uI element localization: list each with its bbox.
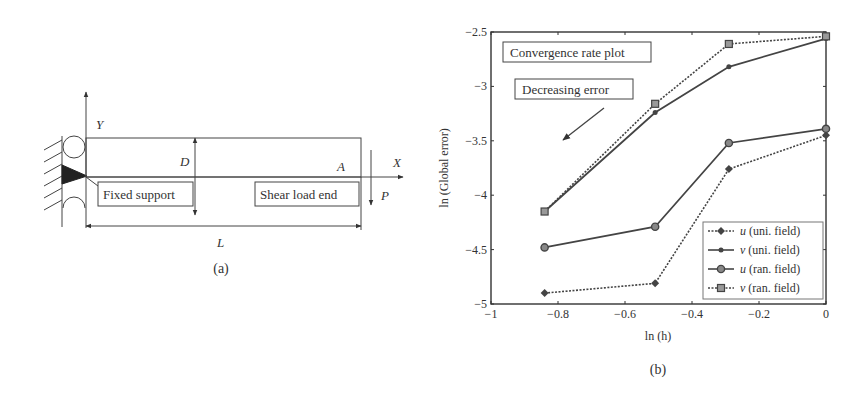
y-tick-label: −2.5 — [465, 25, 487, 39]
series-v-uni-field- — [542, 36, 828, 214]
legend: u (uni. field)v (uni. field)u (ran. fiel… — [703, 222, 823, 299]
pin-support — [62, 165, 87, 184]
x-tick-label: −0.8 — [547, 307, 569, 321]
title-box-label: Convergence rate plot — [510, 45, 625, 60]
figure-canvas: Y X D A P L Fixed support Shear load end… — [0, 0, 867, 396]
svg-text:u (uni. field): u (uni. field) — [740, 224, 800, 238]
load-p-label: P — [380, 188, 389, 203]
beam-diagram — [44, 92, 403, 230]
x-axis-label: X — [392, 155, 402, 170]
y-tick-label: −3 — [474, 79, 487, 93]
roller-bottom — [63, 197, 85, 208]
x-axis-title: ln (h) — [645, 329, 671, 343]
length-label: L — [216, 235, 224, 250]
x-tick-label: −0.2 — [748, 307, 770, 321]
caption-b: (b) — [650, 362, 667, 378]
caption-a: (a) — [213, 261, 229, 277]
beam — [86, 138, 361, 177]
y-tick-label: −4 — [474, 188, 487, 202]
point-a-label: A — [336, 159, 345, 174]
svg-text:u (ran. field): u (ran. field) — [740, 262, 800, 276]
x-tick-label: −0.6 — [614, 307, 636, 321]
shear-load-end-label: Shear load end — [260, 187, 338, 202]
y-tick-label: −3.5 — [465, 134, 487, 148]
arrow-box-label: Decreasing error — [522, 82, 610, 97]
svg-text:v (ran. field): v (ran. field) — [740, 281, 800, 295]
fixed-support-label: Fixed support — [103, 187, 175, 202]
svg-text:v (uni. field): v (uni. field) — [740, 243, 800, 257]
roller-top — [63, 136, 85, 158]
x-tick-label: 0 — [823, 307, 829, 321]
y-axis-title: ln (Global error) — [437, 128, 451, 207]
decreasing-error-arrow — [563, 108, 604, 140]
depth-label: D — [179, 154, 190, 169]
wall-hatch — [44, 136, 62, 227]
y-tick-label: −4.5 — [465, 243, 487, 257]
y-tick-label: −5 — [474, 297, 487, 311]
x-tick-label: −0.4 — [681, 307, 703, 321]
y-axis-label: Y — [96, 117, 105, 132]
